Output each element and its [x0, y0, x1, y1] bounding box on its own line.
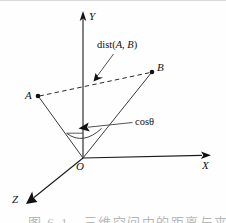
y-axis-label: Y [89, 11, 95, 22]
vector-oa-line [39, 97, 84, 159]
point-b-marker [150, 70, 155, 75]
distance-annotation-label: dist(A, B) [97, 40, 137, 51]
dist-prefix-text: dist( [97, 39, 116, 50]
x-axis-arrowhead [201, 152, 211, 159]
point-a-label: A [25, 90, 32, 101]
z-axis-label: Z [12, 194, 18, 205]
dist-suffix-text: ) [134, 39, 138, 50]
point-a-marker [36, 94, 41, 99]
figure-caption-text: 图 6-1 三维空间中的距离与夹角余弦示意图 [28, 212, 226, 223]
cosine-annotation-label: cosθ [135, 117, 154, 128]
point-b-label: B [157, 62, 164, 73]
x-axis-line [83, 155, 202, 158]
figure-caption-strip: 图 6-1 三维空间中的距离与夹角余弦示意图 [0, 212, 226, 223]
dist-leader-line [97, 54, 114, 77]
coordinate-diagram [0, 0, 226, 223]
origin-label: O [76, 161, 84, 172]
figure-container: Y X Z O A B dist(A, B) cosθ 图 6-1 三维空间中的… [0, 0, 226, 223]
x-axis-label: X [202, 160, 209, 171]
z-axis-arrowhead [26, 191, 37, 204]
